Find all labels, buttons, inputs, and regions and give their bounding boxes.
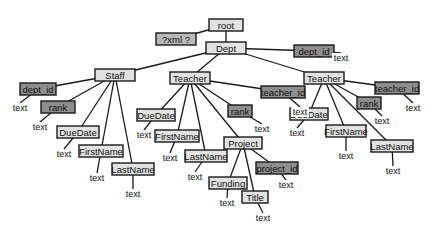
node-label: Staff <box>105 70 125 81</box>
node-xmldecl: ?xml ? <box>156 33 196 45</box>
node-label: ?xml ? <box>162 34 190 45</box>
text-leaf: text <box>256 213 271 223</box>
text-leaf: text <box>386 166 401 176</box>
edge-t1-t1_lastname <box>190 78 206 156</box>
edge-t2-t2_firstname <box>324 78 346 131</box>
node-label: DueDate <box>137 110 175 121</box>
node-label: rank <box>360 98 379 109</box>
node-label: FirstName <box>79 146 123 157</box>
tree-nodes: root?xml ?Deptdept_idStaffdept_idrankDue… <box>20 19 419 203</box>
node-label: Funding <box>211 178 245 189</box>
text-leaf: text <box>13 103 28 113</box>
node-t2_teacher_id: teacher_id <box>375 82 419 94</box>
node-label: rank <box>49 102 68 113</box>
node-label: LastName <box>370 141 413 152</box>
node-t2_firstname: FirstName <box>324 125 368 137</box>
text-leaf: text <box>188 172 203 182</box>
node-t1_firstname: FirstName <box>155 130 199 142</box>
text-leaf: text <box>57 149 72 159</box>
node-label: project_id <box>256 163 297 174</box>
text-leaf: text <box>334 53 349 63</box>
node-staff: Staff <box>95 69 135 81</box>
text-leaf: text <box>90 173 105 183</box>
node-s_dept_id: dept_id <box>20 83 56 95</box>
node-t1_title: Title <box>242 191 268 203</box>
node-label: dept_id <box>22 84 53 95</box>
node-t2_rank: rank <box>357 97 381 109</box>
node-t1_project_id: project_id <box>256 162 298 174</box>
node-t1_duedate: DueDate <box>137 109 175 121</box>
edge-t1-t1_firstname <box>177 78 190 136</box>
node-root: root <box>209 19 243 31</box>
node-t2: Teacher <box>304 72 344 84</box>
node-t1_project: Project <box>224 137 262 149</box>
node-label: root <box>218 20 235 31</box>
node-t2_lastname: LastName <box>370 140 413 152</box>
node-t1_funding: Funding <box>209 177 247 189</box>
text-leaf: text <box>33 122 48 132</box>
node-label: DueDate <box>59 127 97 138</box>
node-label: Dept <box>216 43 236 54</box>
text-leaf: text <box>290 128 305 138</box>
node-label: teacher_id <box>261 87 305 98</box>
node-label: rank <box>231 106 250 117</box>
node-label: LastName <box>111 164 154 175</box>
node-label: FirstName <box>324 126 368 137</box>
node-t1_rank: rank <box>228 105 252 117</box>
node-label: teacher_id <box>375 83 419 94</box>
node-t1_lastname: LastName <box>184 150 227 162</box>
text-leaf: text <box>339 151 354 161</box>
node-t1_teacher_id: teacher_id <box>261 86 305 98</box>
text-leaf: text <box>255 124 270 134</box>
text-leaf: text <box>406 103 421 113</box>
text-leaf: text <box>163 153 178 163</box>
text-leaf: text <box>220 198 235 208</box>
xml-tree-diagram: root?xml ?Deptdept_idStaffdept_idrankDue… <box>0 0 434 236</box>
text-leaf: text <box>293 107 308 117</box>
node-dept: Dept <box>206 42 246 54</box>
text-leaf: text <box>375 116 390 126</box>
text-leaf: text <box>126 189 141 199</box>
node-label: LastName <box>184 151 227 162</box>
node-label: Teacher <box>307 73 341 84</box>
node-dept_id_a: dept_id <box>294 45 334 57</box>
node-label: Title <box>246 192 264 203</box>
node-label: Teacher <box>173 73 207 84</box>
node-label: Project <box>228 138 258 149</box>
node-s_duedate: DueDate <box>57 126 99 138</box>
text-leaf: text <box>137 130 152 140</box>
node-t1: Teacher <box>170 72 210 84</box>
node-label: FirstName <box>155 131 199 142</box>
node-s_rank: rank <box>41 101 75 113</box>
node-label: dept_id <box>298 46 329 57</box>
node-s_firstname: FirstName <box>79 145 123 157</box>
text-leaf: text <box>279 180 294 190</box>
node-s_lastname: LastName <box>111 163 154 175</box>
